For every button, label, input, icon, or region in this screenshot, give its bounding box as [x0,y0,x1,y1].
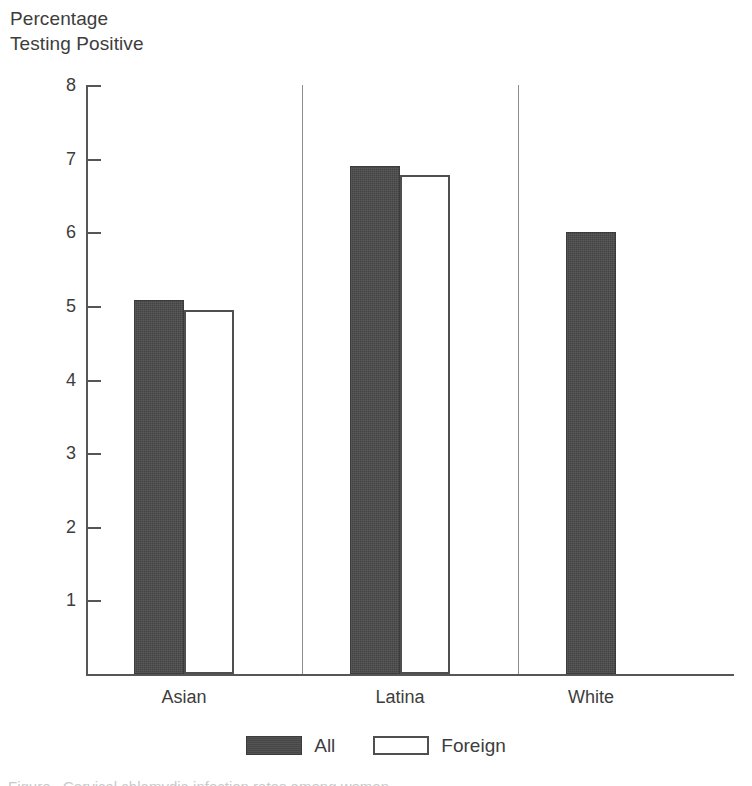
y-axis-title-line-1: Percentage [10,8,108,29]
y-axis-tick-label: 6 [46,223,76,241]
bar-asian-foreign [184,310,234,674]
x-axis-category-labels: AsianLatinaWhite [86,686,734,712]
y-axis-tick-label: 5 [46,297,76,315]
figure-caption-cropped: Figure . Cervical chlamydia infection ra… [8,779,708,786]
outlined-white-swatch [373,736,429,755]
y-axis-tick [88,159,101,161]
y-axis-tick [88,85,101,87]
y-axis-tick-label: 1 [46,591,76,609]
legend-label-all: All [314,736,335,755]
legend-entry-foreign: Foreign [373,736,505,755]
category-label-latina: Latina [340,686,460,708]
y-axis-tick [88,232,101,234]
chart-legend: AllForeign [0,736,752,755]
y-axis-tick [88,306,101,308]
y-axis-title-line-2: Testing Positive [10,33,144,54]
x-axis-line [86,674,734,676]
bar-latina-all [350,166,400,674]
filled-dark-swatch [246,736,302,755]
group-separator [518,85,519,674]
y-axis-tick [88,453,101,455]
category-label-asian: Asian [124,686,244,708]
y-axis-tick [88,600,101,602]
y-axis-tick-labels: 87654321 [36,85,76,676]
y-axis-tick-label: 3 [46,444,76,462]
legend-entry-all: All [246,736,335,755]
bar-asian-all [134,300,184,674]
y-axis-tick-label: 2 [46,518,76,536]
group-separator [302,85,303,674]
y-axis-tick-label: 4 [46,371,76,389]
legend-label-foreign: Foreign [441,736,505,755]
bar-latina-foreign [400,175,450,674]
y-axis-tick-label: 7 [46,150,76,168]
plot-area [86,85,734,676]
category-label-white: White [531,686,651,708]
bar-chart-figure: Percentage Testing Positive 87654321 Asi… [0,0,752,786]
y-axis-tick [88,380,101,382]
y-axis-tick-label: 8 [46,76,76,94]
bar-white-all [566,232,616,674]
y-axis-title: Percentage Testing Positive [10,6,144,56]
y-axis-tick [88,527,101,529]
